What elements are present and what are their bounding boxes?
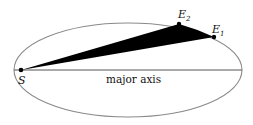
label-e2: E2: [177, 8, 191, 23]
label-e1: E1: [211, 23, 225, 38]
swept-area-sector: [21, 24, 214, 70]
point-s: [19, 68, 24, 73]
point-e2: [177, 22, 181, 26]
major-axis-label: major axis: [106, 73, 161, 85]
label-s: S: [18, 74, 26, 87]
kepler-diagram: S E2 E1 major axis: [0, 0, 253, 125]
